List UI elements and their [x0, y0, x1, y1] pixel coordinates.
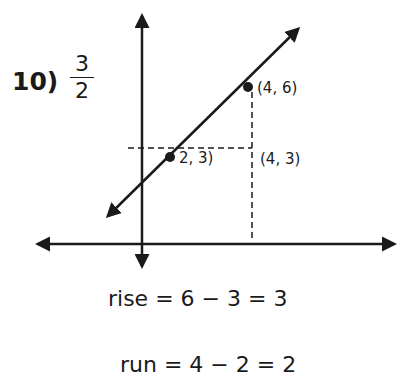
point-label-2-3: 2, 3) — [179, 149, 213, 167]
rise-equation: rise = 6 − 3 = 3 — [108, 286, 287, 311]
point-4-6 — [243, 82, 253, 92]
run-equation: run = 4 − 2 = 2 — [120, 352, 296, 377]
corner-label-4-3: (4, 3) — [260, 150, 300, 168]
point-2-3 — [165, 152, 175, 162]
point-label-4-6: (4, 6) — [257, 79, 297, 97]
graphed-line — [108, 29, 298, 216]
coordinate-graph — [0, 0, 418, 382]
